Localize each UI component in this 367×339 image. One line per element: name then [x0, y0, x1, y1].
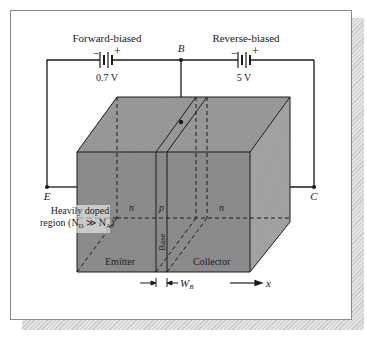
battery-reverse-icon — [238, 52, 250, 68]
battery1-minus: − — [93, 46, 100, 60]
x-axis-label: x — [265, 277, 271, 289]
collector-label: Collector — [193, 256, 231, 267]
base-width-marker — [140, 278, 178, 287]
emitter-label: Emitter — [105, 256, 136, 267]
collector-node — [312, 185, 316, 189]
battery2-minus: − — [231, 46, 238, 60]
emitter-node — [45, 185, 49, 189]
transistor-diagram: Forward-biased Reverse-biased − + − + 0.… — [0, 0, 367, 339]
base-width-label: WB — [180, 277, 194, 291]
base-type-label: p — [158, 202, 164, 213]
emitter-type-label: n — [129, 202, 134, 213]
reverse-biased-label: Reverse-biased — [212, 32, 280, 44]
collector-terminal-label: C — [310, 190, 318, 202]
battery-forward-icon — [100, 52, 112, 68]
battery2-voltage: 5 V — [237, 72, 252, 83]
base-terminal-label: B — [178, 42, 185, 54]
collector-type-label: n — [219, 202, 224, 213]
x-axis-arrow — [230, 281, 262, 286]
battery1-plus: + — [114, 44, 121, 58]
emitter-terminal-label: E — [43, 190, 51, 202]
battery1-voltage: 0.7 V — [96, 72, 119, 83]
forward-biased-label: Forward-biased — [72, 32, 142, 44]
battery2-plus: + — [252, 44, 259, 58]
base-label: Base — [157, 233, 167, 251]
base-node — [179, 58, 183, 62]
heavily-doped-label: Heavily doped — [51, 205, 110, 216]
